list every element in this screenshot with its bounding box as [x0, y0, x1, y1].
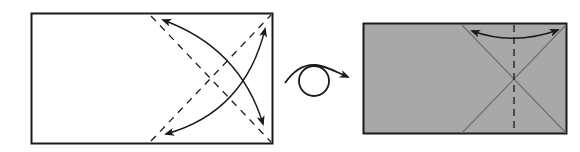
- turn-over-arrow-icon: [285, 65, 348, 83]
- paper-back: [364, 24, 567, 134]
- step-1-diagram: [32, 14, 273, 144]
- paper-front: [32, 14, 273, 144]
- turn-over-symbol: [285, 65, 348, 96]
- origami-diagram: [0, 0, 580, 152]
- turn-over-loop: [299, 66, 329, 96]
- step-2-diagram: [364, 24, 567, 134]
